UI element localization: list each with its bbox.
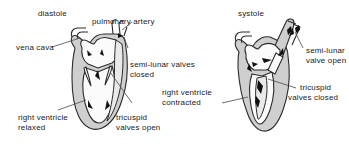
label-right-ventricle-contracted-line2: contracted xyxy=(162,98,201,108)
label-right-ventricle-contracted-line1: right ventricle xyxy=(162,88,212,98)
label-tricuspid-valves-open-line1: tricuspid xyxy=(116,113,147,123)
label-tricuspid-valves-closed-line1: tricuspid xyxy=(300,83,331,93)
label-right-ventricle-relaxed-line1: right ventricle xyxy=(18,113,68,123)
label-semilunar-valve-open-line1: semi-lunar xyxy=(306,46,345,56)
label-semilunar-valves-closed-line1: semi-lunar valves xyxy=(130,60,195,70)
label-tricuspid-valves-open-line2: valves open xyxy=(116,123,160,133)
systole-title: systole xyxy=(238,9,264,19)
systole-heart-drawing xyxy=(235,19,300,131)
label-right-ventricle-relaxed-line2: relaxed xyxy=(18,123,45,133)
figure-canvas: diastole vena cava pulmonary artery semi… xyxy=(0,0,349,144)
label-semilunar-valve-open-line2: valve open xyxy=(306,56,346,66)
leader-semilunar-open xyxy=(295,32,303,48)
label-vena-cava: vena cava xyxy=(16,43,54,53)
label-pulmonary-artery: pulmonary artery xyxy=(92,17,155,27)
label-semilunar-valves-closed-line2: closed xyxy=(130,70,154,80)
diastole-title: diastole xyxy=(38,9,67,19)
label-tricuspid-valves-closed-line2: valves closed xyxy=(288,93,338,103)
